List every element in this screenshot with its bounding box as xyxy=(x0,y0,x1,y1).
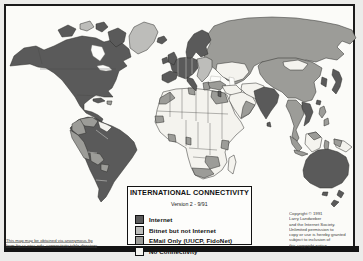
internet-swatch xyxy=(135,215,144,224)
legend-label-email: EMail Only (UUCP, FidoNet) xyxy=(149,237,232,244)
none-swatch xyxy=(135,247,144,256)
region-australia xyxy=(303,149,349,188)
email-swatch xyxy=(135,236,144,245)
legend-row-none: No Connectivity xyxy=(135,248,251,256)
legend-row-internet: Internet xyxy=(135,216,251,224)
legend-version: Version 2 - 9/91 xyxy=(128,197,251,213)
region-taiwan xyxy=(316,100,321,105)
ftp-note-line2: from ftp.cs.wisc.edu, connectivity table… xyxy=(6,243,118,248)
map-legend: INTERNATIONAL CONNECTIVITY Version 2 - 9… xyxy=(127,186,252,245)
region-sri-lanka xyxy=(267,122,271,127)
region-kenya xyxy=(221,140,229,150)
legend-title: INTERNATIONAL CONNECTIVITY xyxy=(128,189,251,197)
legend-row-bitnet: Bitnet but not Internet xyxy=(135,226,251,234)
ftp-availability-note: This map may be obtained via anonymous f… xyxy=(6,238,108,250)
copyright-note: Copyright © 1991 Larry Landweber and the… xyxy=(289,211,345,249)
region-hispaniola xyxy=(107,101,112,105)
region-cote-divoire xyxy=(168,134,176,142)
legend-label-bitnet: Bitnet but not Internet xyxy=(149,227,216,234)
legend-row-email: EMail Only (UUCP, FidoNet) xyxy=(135,237,251,245)
region-senegal xyxy=(155,116,164,123)
legend-label-none: No Connectivity xyxy=(149,248,198,255)
region-israel xyxy=(218,91,221,97)
region-cameroon xyxy=(186,137,191,145)
bitnet-swatch xyxy=(135,226,144,235)
region-tasmania xyxy=(322,192,328,196)
scanned-map-page: INTERNATIONAL CONNECTIVITY Version 2 - 9… xyxy=(0,0,363,261)
legend-label-internet: Internet xyxy=(149,216,173,223)
